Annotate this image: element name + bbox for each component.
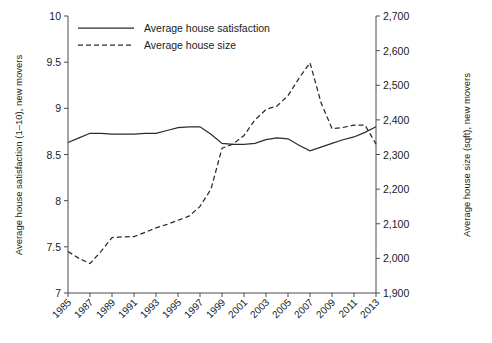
left-tick-label: 10: [49, 10, 61, 22]
series-average-house-size: [68, 63, 376, 264]
x-tick-label: 2007: [292, 296, 316, 320]
x-tick-label: 1989: [94, 296, 118, 320]
legend-label-size: Average house size: [144, 39, 236, 51]
left-axis: 77.588.599.510 Average house satisfactio…: [13, 10, 68, 299]
right-tick-label: 2,300: [383, 149, 409, 161]
x-tick-label: 1985: [50, 296, 74, 320]
left-tick-label: 8: [55, 195, 61, 207]
left-tick-label: 7.5: [46, 241, 61, 253]
x-tick-label: 2011: [336, 296, 359, 319]
right-axis: 1,9002,0002,1002,2002,3002,4002,5002,600…: [376, 10, 472, 299]
right-tick-label: 2,700: [383, 10, 409, 22]
x-tick-label: 1987: [72, 296, 96, 320]
x-tick-label: 1997: [182, 296, 206, 320]
x-tick-label: 2013: [358, 296, 382, 320]
x-tick-label: 2001: [226, 296, 250, 320]
right-tick-label: 2,400: [383, 114, 409, 126]
right-tick-label: 2,100: [383, 218, 409, 230]
right-tick-label: 2,600: [383, 45, 409, 57]
x-tick-label: 2005: [270, 296, 294, 320]
left-axis-title: Average house satisfaction (1–10), new m…: [13, 55, 24, 256]
right-tick-label: 2,000: [383, 252, 409, 264]
right-tick-label: 1,900: [383, 287, 409, 299]
series-layer: [68, 63, 376, 264]
x-tick-label: 1999: [204, 296, 228, 320]
x-tick-label: 1993: [138, 296, 162, 320]
chart-legend: Average house satisfaction Average house…: [78, 22, 270, 51]
series-average-house-satisfaction: [68, 127, 376, 151]
x-tick-label: 1991: [116, 296, 140, 320]
x-tick-label: 2003: [248, 296, 272, 320]
x-axis: 1985198719891991199319951997199920012003…: [50, 293, 382, 320]
chart-figure: 77.588.599.510 Average house satisfactio…: [0, 0, 492, 343]
left-tick-label: 9.5: [46, 56, 61, 68]
legend-label-satisfaction: Average house satisfaction: [144, 22, 270, 34]
right-tick-label: 2,200: [383, 183, 409, 195]
right-tick-label: 2,500: [383, 79, 409, 91]
left-tick-label: 9: [55, 102, 61, 114]
chart-svg: 77.588.599.510 Average house satisfactio…: [0, 0, 492, 343]
left-tick-label: 7: [55, 287, 61, 299]
left-tick-label: 8.5: [46, 149, 61, 161]
x-tick-label: 2009: [314, 296, 338, 320]
x-tick-label: 1995: [160, 296, 184, 320]
right-axis-title: Average house size (sqft), new movers: [461, 73, 472, 237]
